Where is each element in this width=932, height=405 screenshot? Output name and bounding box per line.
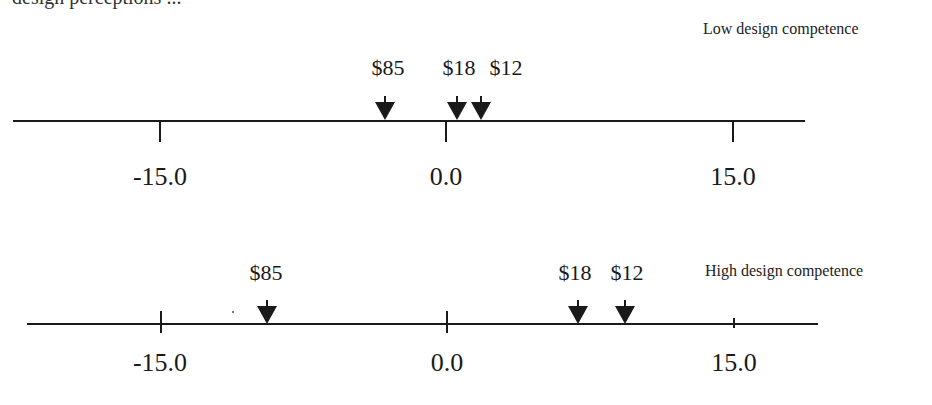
high-tick-label-neg15: -15.0 [133,348,187,378]
low-tick-label-0: 0.0 [430,162,463,192]
high-marker-label-12: $12 [611,260,644,286]
high-marker-label-85: $85 [250,260,283,286]
low-competence-label: Low design competence [703,20,859,38]
cutoff-caption-text: design perceptions ... [12,0,181,9]
high-competence-label: High design competence [705,262,863,280]
low-tick-pos15 [732,120,734,142]
low-tick-neg15 [159,120,161,142]
high-tick-label-0: 0.0 [431,348,464,378]
low-tick-label-pos15: 15.0 [710,162,756,192]
high-axis-line [27,323,818,325]
low-marker-label-12: $12 [490,55,523,81]
low-tick-label-neg15: -15.0 [133,162,187,192]
low-tick-0 [445,120,447,142]
low-marker-label-85: $85 [372,55,405,81]
high-tick-0 [446,311,448,333]
low-marker-label-18: $18 [443,55,476,81]
high-tick-neg15 [160,311,162,333]
high-marker-label-18: $18 [559,260,592,286]
high-tick-label-pos15: 15.0 [711,348,757,378]
scan-speck [232,311,234,313]
low-axis-line [13,120,805,122]
high-tick-pos15 [733,318,735,328]
